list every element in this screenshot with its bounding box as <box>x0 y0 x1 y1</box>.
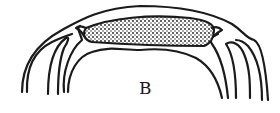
stippled-body <box>84 16 214 46</box>
left-middle-limb <box>48 38 68 94</box>
right-middle-limb <box>226 42 250 98</box>
panel-label: B <box>139 80 152 97</box>
left-outer-limb <box>27 34 72 92</box>
